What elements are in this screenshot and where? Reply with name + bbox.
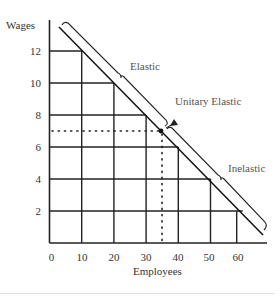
elastic-label: Elastic <box>130 60 160 72</box>
x-tick: 30 <box>141 251 153 263</box>
unitary-point <box>159 129 164 134</box>
x-tick: 0 <box>49 251 55 263</box>
y-tick-labels: 12 10 8 6 4 2 <box>30 45 42 217</box>
y-tick: 4 <box>36 173 42 185</box>
elastic-bracket <box>62 22 167 126</box>
unitary-elastic-label: Unitary Elastic <box>175 95 241 107</box>
y-tick: 10 <box>30 77 42 89</box>
y-axis-label: Wages <box>6 19 35 31</box>
bottom-divider <box>0 293 275 294</box>
y-tick: 8 <box>36 109 42 121</box>
y-tick: 2 <box>36 205 42 217</box>
inelastic-label: Inelastic <box>228 162 265 174</box>
grid <box>50 51 243 243</box>
x-axis-label: Employees <box>133 265 182 277</box>
y-tick: 12 <box>30 45 41 57</box>
x-tick: 50 <box>204 251 216 263</box>
x-tick: 60 <box>233 251 245 263</box>
x-tick: 10 <box>77 251 89 263</box>
x-tick: 40 <box>173 251 185 263</box>
y-tick: 6 <box>36 141 42 153</box>
x-tick-labels: 0 10 20 30 40 50 60 <box>49 251 244 263</box>
elasticity-chart: Wages Employees 12 10 8 6 4 2 0 10 20 30… <box>0 0 280 296</box>
x-tick: 20 <box>109 251 121 263</box>
